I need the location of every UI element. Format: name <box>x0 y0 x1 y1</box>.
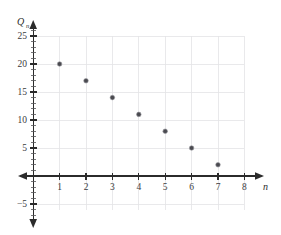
chart-canvas: 25 20 15 10 5 −5 1 2 3 4 5 6 7 8 Q n n <box>0 0 281 235</box>
y-axis-title-subscript: n <box>26 22 29 29</box>
data-point <box>57 62 62 67</box>
x-tick-label: 6 <box>189 182 194 192</box>
data-point <box>163 129 168 134</box>
y-axis-title-text: Q <box>17 16 25 27</box>
data-point <box>110 95 115 100</box>
data-point <box>189 146 194 151</box>
y-tick-label: 10 <box>18 115 28 125</box>
y-tick-label: 15 <box>18 87 28 97</box>
scatter-plot-figure: 25 20 15 10 5 −5 1 2 3 4 5 6 7 8 Q n n <box>0 0 281 235</box>
x-tick-label: 2 <box>84 182 89 192</box>
y-tick-label: 25 <box>18 31 28 41</box>
x-tick-label: 8 <box>242 182 247 192</box>
x-tick-label: 4 <box>136 182 141 192</box>
y-tick-label: 5 <box>22 143 27 153</box>
chart-background <box>0 0 281 235</box>
x-tick-label: 7 <box>216 182 221 192</box>
data-point <box>137 112 142 117</box>
y-tick-label: 20 <box>18 59 28 69</box>
x-tick-label: 3 <box>110 182 115 192</box>
x-tick-label: 1 <box>57 182 62 192</box>
x-axis-title-text: n <box>263 181 268 192</box>
x-tick-label: 5 <box>163 182 168 192</box>
data-point <box>84 79 89 84</box>
data-point <box>216 163 221 168</box>
y-tick-label: −5 <box>17 199 27 209</box>
